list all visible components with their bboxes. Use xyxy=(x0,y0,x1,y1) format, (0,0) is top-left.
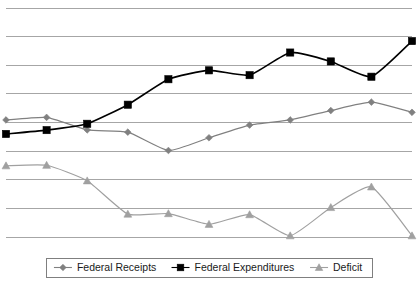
legend-label: Federal Expenditures xyxy=(195,261,295,273)
data-point xyxy=(2,130,9,137)
data-point xyxy=(368,73,375,80)
data-point xyxy=(287,49,294,56)
data-point xyxy=(408,37,415,44)
data-point xyxy=(83,177,91,184)
data-point xyxy=(327,58,334,65)
series-line-federal-receipts xyxy=(6,102,412,150)
data-point xyxy=(327,107,334,114)
series-line-federal-expenditures xyxy=(6,41,412,134)
gridlines xyxy=(6,8,412,237)
data-point xyxy=(124,101,131,108)
data-point xyxy=(165,147,172,154)
data-point xyxy=(165,76,172,83)
markers-federal-receipts xyxy=(3,99,416,154)
data-point xyxy=(206,134,213,141)
line-chart: Federal ReceiptsFederal ExpendituresDefi… xyxy=(0,0,419,289)
legend-swatch-marker xyxy=(177,264,184,271)
chart-legend[interactable]: Federal ReceiptsFederal ExpendituresDefi… xyxy=(47,258,372,277)
data-point xyxy=(124,210,132,217)
data-point xyxy=(246,72,253,79)
data-point xyxy=(43,114,50,121)
data-point xyxy=(327,204,335,211)
data-point xyxy=(43,127,50,134)
data-point xyxy=(409,109,416,116)
data-point xyxy=(205,67,212,74)
chart-container: Federal ReceiptsFederal ExpendituresDefi… xyxy=(0,0,419,289)
markers-deficit xyxy=(2,161,416,238)
data-point xyxy=(124,129,131,136)
legend-label: Federal Receipts xyxy=(77,261,156,273)
legend-label: Deficit xyxy=(333,261,362,273)
data-point xyxy=(368,99,375,106)
data-point xyxy=(84,120,91,127)
